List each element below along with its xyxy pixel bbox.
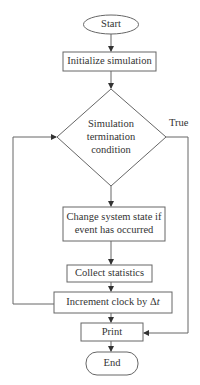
change-state-label: Change system state if event has occurre… (63, 211, 165, 236)
start-label: Start (83, 18, 139, 31)
decision-label: Simulation termination condition (66, 117, 156, 156)
increment-var: t (157, 296, 160, 307)
collect-statistics-label: Collect statistics (67, 267, 152, 280)
change-line-2: event has occurred (63, 224, 165, 237)
decision-line-2: termination (66, 130, 156, 143)
edge-loop-back (13, 137, 56, 304)
increment-clock-label: Increment clock by Δt (54, 296, 172, 309)
increment-prefix: Increment clock by Δ (66, 296, 156, 307)
change-line-1: Change system state if (63, 211, 165, 224)
decision-line-1: Simulation (66, 117, 156, 130)
true-label: True (169, 117, 188, 128)
print-label: Print (81, 326, 143, 339)
decision-line-3: condition (66, 143, 156, 156)
initialize-label: Initialize simulation (63, 55, 156, 68)
end-label: End (86, 357, 138, 370)
